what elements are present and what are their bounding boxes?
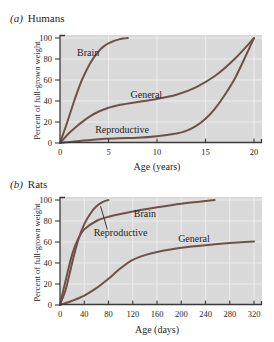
- brain-curve-label: Brain: [134, 208, 156, 219]
- x-tick-label: 320: [248, 309, 261, 319]
- x-tick-label: 0: [58, 309, 62, 319]
- reproductive-curve-label: Reproductive: [95, 124, 149, 135]
- y-tick-label: 60: [44, 75, 53, 85]
- general-curve-label: General: [178, 233, 210, 244]
- x-tick-label: 200: [175, 309, 188, 319]
- x-tick-label: 280: [223, 309, 236, 319]
- x-tick-label: 80: [104, 309, 113, 319]
- x-tick-label: 120: [126, 309, 139, 319]
- x-tick-label: 160: [151, 309, 164, 319]
- reproductive-curve-label: Reproductive: [94, 227, 148, 238]
- x-tick-label: 40: [80, 309, 89, 319]
- x-axis-label: Age (years): [134, 161, 181, 173]
- x-axis-label: Age (days): [135, 324, 179, 336]
- x-tick-label: 15: [201, 147, 210, 157]
- general-curve-label: General: [131, 89, 163, 100]
- y-tick-label: 40: [44, 96, 53, 106]
- x-tick-label: 240: [199, 309, 212, 319]
- x-tick-label: 0: [58, 147, 62, 157]
- chart-humans: 02040608010005101520Age (years)Percent o…: [32, 33, 262, 173]
- figure-canvas: 02040608010005101520Age (years)Percent o…: [0, 0, 274, 342]
- y-axis-label: Percent of full-grown weight: [32, 203, 42, 302]
- x-tick-label: 5: [106, 147, 110, 157]
- y-tick-label: 80: [44, 216, 53, 226]
- y-tick-label: 0: [48, 138, 52, 148]
- y-tick-label: 40: [44, 258, 53, 268]
- y-tick-label: 80: [44, 54, 53, 64]
- y-tick-label: 0: [48, 300, 52, 310]
- chart-rats: 02040608010004080120160200240280320Age (…: [32, 195, 262, 336]
- y-tick-label: 20: [44, 117, 53, 127]
- x-tick-label: 10: [153, 147, 162, 157]
- growth-curves-figure: (a)Humans (b)Rats 02040608010005101520Ag…: [0, 0, 274, 342]
- y-tick-label: 20: [44, 279, 53, 289]
- y-axis-label: Percent of full-grown weight: [32, 41, 42, 140]
- brain-curve-label: Brain: [77, 47, 99, 58]
- x-tick-label: 20: [250, 147, 259, 157]
- y-tick-label: 60: [44, 237, 53, 247]
